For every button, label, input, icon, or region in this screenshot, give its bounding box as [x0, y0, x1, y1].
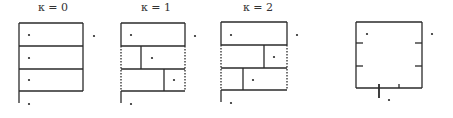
k0-dot-4	[28, 103, 30, 105]
diagram-canvas: κ = 0 κ = 1 κ = 2	[0, 0, 453, 118]
k1-dot-3	[194, 35, 196, 37]
square-dot-1	[431, 33, 433, 35]
k0-dot-3	[93, 35, 95, 37]
k2-dot-4	[230, 102, 232, 104]
k2-dot-3	[296, 34, 298, 36]
square-dot-0	[366, 33, 368, 35]
k0-dot-0	[28, 34, 30, 36]
k1-dot-0	[130, 34, 132, 36]
k2-dot-2	[252, 79, 254, 81]
k2-dot-1	[273, 56, 275, 58]
k0-dot-2	[28, 79, 30, 81]
k0-dot-1	[28, 57, 30, 59]
k1-dot-4	[130, 103, 132, 105]
k2-dot-0	[230, 34, 232, 36]
k1-dot-2	[173, 79, 175, 81]
diagram-svg	[0, 0, 453, 118]
k1-dot-1	[151, 57, 153, 59]
square-dot-2	[388, 99, 390, 101]
